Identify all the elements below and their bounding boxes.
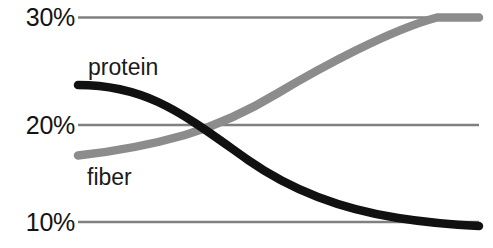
gridlines xyxy=(78,18,479,223)
series-protein-line xyxy=(78,85,479,226)
series-fiber-line xyxy=(78,18,479,156)
y-axis-tick-30: 30% xyxy=(5,5,75,30)
series-label-fiber: fiber xyxy=(87,166,132,189)
series-label-protein: protein xyxy=(88,56,158,79)
y-axis-tick-20: 20% xyxy=(5,113,75,138)
line-chart: 30% 20% 10% protein fiber xyxy=(0,0,493,248)
y-axis-tick-10: 10% xyxy=(5,210,75,235)
